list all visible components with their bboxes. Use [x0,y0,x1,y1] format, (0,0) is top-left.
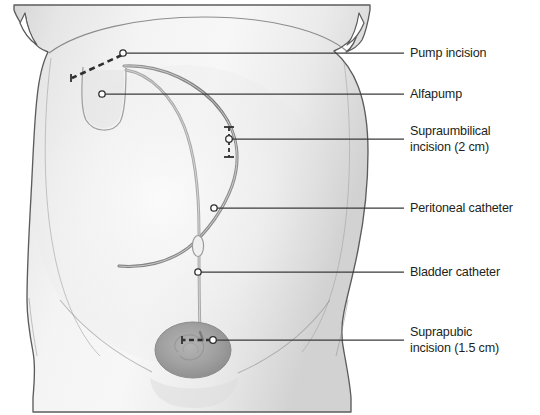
callout-label-bladder-catheter: Bladder catheter [410,265,500,281]
callout-label-alfapump: Alfapump [410,87,462,103]
anchor-dot-alfapump [99,91,105,97]
bladder-body [155,322,231,378]
abdomen-highlight [35,65,335,365]
callout-label-supraumbilical-incision: Supraumbilical incision (2 cm) [410,124,491,155]
callout-label-suprapubic-incision: Suprapubic incision (1.5 cm) [410,325,499,356]
callout-label-peritoneal-catheter: Peritoneal catheter [410,201,513,217]
bladder [155,322,231,378]
callout-label-pump-incision: Pump incision [410,46,486,62]
alfapump-implant-diagram: Pump incision Alfapump Supraumbilical in… [0,0,540,415]
anchor-dot-pump-incision [120,50,126,56]
anchor-dot-bladder-catheter [195,269,201,275]
anchor-dot-supraumbilical-incision [226,136,233,143]
umbilicus-outline [192,236,203,257]
anchor-dot-peritoneal-catheter [211,205,217,211]
umbilicus [192,236,203,257]
alfapump-shading [83,70,124,128]
anchor-dot-suprapubic-incision [210,337,217,344]
